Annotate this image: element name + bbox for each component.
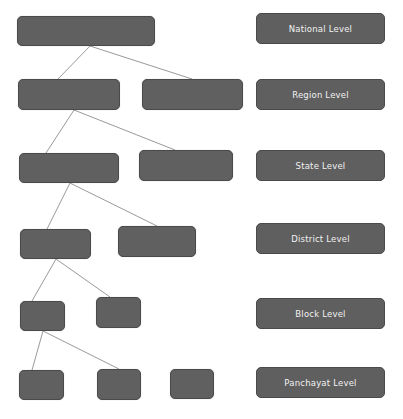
connector-region-state-right: [74, 110, 175, 150]
label-district-level: District Level: [256, 223, 385, 254]
label-region-level: Region Level: [256, 79, 385, 110]
node-panchayat-1: [19, 370, 64, 400]
label-state-level: State Level: [256, 150, 385, 181]
connector-state-district-right: [70, 183, 157, 226]
connector-district-block-left: [32, 259, 56, 301]
connector-block-panchayat-middle: [43, 331, 119, 369]
label-national-level: National Level: [256, 13, 385, 44]
node-state-right: [139, 150, 233, 181]
connector-national-region-left: [58, 46, 90, 79]
connector-national-region-right: [90, 46, 192, 79]
node-region-right: [142, 79, 243, 110]
connector-district-block-right: [56, 259, 110, 297]
node-block-left: [20, 301, 65, 331]
connector-lines: [0, 0, 403, 419]
label-block-level: Block Level: [256, 298, 385, 329]
node-state-left: [19, 153, 119, 183]
node-national: [17, 16, 155, 46]
connector-block-panchayat-left: [32, 331, 43, 370]
label-panchayat-level: Panchayat Level: [256, 367, 385, 398]
connector-region-state-left: [46, 110, 74, 153]
node-district-right: [118, 226, 196, 257]
node-district-left: [20, 229, 91, 259]
node-panchayat-2: [97, 369, 141, 400]
connector-state-district-left: [47, 183, 70, 229]
node-region-left: [18, 79, 120, 110]
node-block-right: [96, 297, 141, 328]
node-panchayat-3: [170, 369, 214, 399]
